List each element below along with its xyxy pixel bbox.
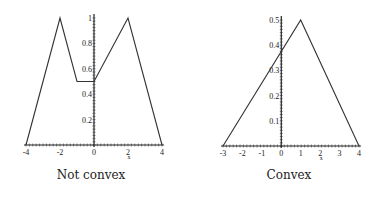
- x-tick-label: 1: [299, 149, 303, 158]
- x-axis-label: x: [128, 154, 131, 160]
- x-tick-label: 0: [279, 149, 283, 158]
- y-tick-label: 0.4: [82, 90, 92, 99]
- x-tick-label: 0: [92, 148, 96, 157]
- chart-not-convex: -4-2024x0.20.40.60.81: [23, 14, 164, 160]
- x-axis-label: x: [320, 155, 323, 161]
- x-tick-label: -3: [220, 149, 227, 158]
- x-tick-label: -2: [57, 148, 64, 157]
- x-tick-label: 3: [338, 149, 342, 158]
- x-tick-label: 4: [160, 148, 164, 157]
- x-tick-label: -4: [23, 148, 30, 157]
- x-tick-label: -1: [259, 149, 266, 158]
- x-tick-label: 4: [357, 149, 361, 158]
- y-tick-label: 1: [88, 14, 92, 23]
- y-tick-label: 0.4: [269, 41, 279, 50]
- y-tick-label: 0.8: [82, 39, 92, 48]
- chart-convex: -3-2-101234x0.10.20.30.40.5: [220, 16, 361, 161]
- y-tick-label: 0.5: [269, 16, 279, 25]
- y-tick-label: 0.2: [82, 116, 92, 125]
- y-tick-label: 0.2: [269, 92, 279, 101]
- caption-convex: Convex: [267, 168, 312, 182]
- x-tick-label: -2: [239, 149, 246, 158]
- y-tick-label: 0.1: [269, 117, 279, 126]
- caption-not-convex: Not convex: [57, 168, 126, 182]
- y-tick-label: 0.6: [82, 65, 92, 74]
- series-line: [223, 20, 359, 146]
